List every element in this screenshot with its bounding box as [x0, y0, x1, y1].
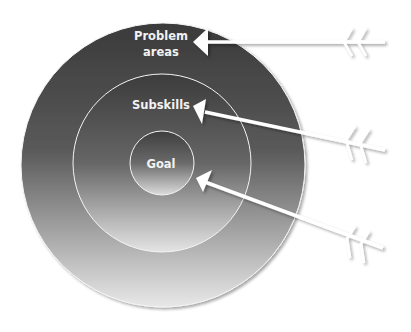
- label-problem-areas-2: areas: [143, 45, 179, 59]
- label-problem-areas: Problem: [134, 29, 188, 43]
- fletching-icon: [347, 226, 369, 263]
- target-diagram: Problem areas Subskills Goal: [0, 0, 411, 332]
- label-subskills: Subskills: [132, 98, 190, 112]
- label-goal: Goal: [146, 157, 175, 171]
